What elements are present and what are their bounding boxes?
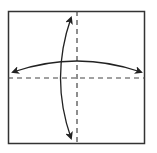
origami-diagram xyxy=(0,0,157,153)
